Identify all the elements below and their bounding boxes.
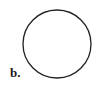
panel-label: b. (10, 66, 20, 80)
diagram-figure: b. (0, 0, 98, 90)
circle-shape (23, 10, 91, 78)
